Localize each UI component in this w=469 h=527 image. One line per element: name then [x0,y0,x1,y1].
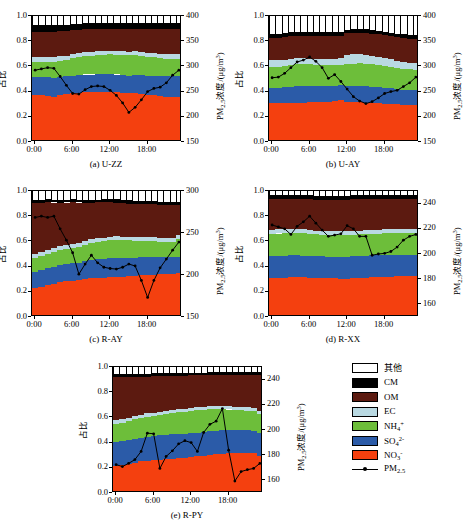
band-SO42- [95,74,102,92]
band-SO42- [238,430,245,453]
stack-column [213,367,220,491]
band-NH4+ [382,66,389,88]
y2-tick-mark [181,141,184,142]
band-OM [38,32,45,57]
band-其他 [51,15,58,25]
band-SO42- [120,258,127,277]
band-其他 [163,366,170,373]
stack-column [157,367,164,491]
band-CM [163,23,170,29]
band-NO3- [201,456,208,491]
band-NO3- [132,463,139,491]
band-NO3- [294,103,301,140]
legend-swatch-other [352,363,378,373]
band-OM [76,30,83,53]
band-CM [126,374,133,377]
x-tick-label: 18:00 [366,145,402,154]
band-SO42- [151,76,158,95]
band-OM [113,377,120,420]
y2-tick-label: 180 [423,274,436,283]
y-tick-mark [28,40,31,41]
y-tick-mark [109,366,112,367]
band-其他 [95,190,102,200]
band-OM [363,199,370,230]
band-NH4+ [350,64,357,86]
x-tick-mark [115,492,116,495]
band-CM [369,195,376,199]
legend-swatch-no3 [352,450,378,460]
band-其他 [388,15,395,33]
band-EC [413,63,418,70]
band-SO42- [369,255,376,277]
band-EC [57,246,64,250]
band-其他 [57,190,64,200]
band-NH4+ [194,410,201,433]
y2-tick-label: 200 [267,425,280,434]
band-SO42- [176,257,181,273]
band-SO42- [294,255,301,277]
band-NO3- [157,96,164,140]
band-NO3- [413,105,418,140]
stack-column [275,191,282,315]
legend-label: EC [384,407,396,416]
band-NO3- [288,103,295,140]
stack-column [313,191,320,315]
band-EC [51,248,58,252]
band-EC [219,406,226,409]
band-SO42- [51,78,58,97]
band-NO3- [126,464,133,491]
band-其他 [144,366,151,374]
band-NO3- [394,276,401,315]
band-EC [407,229,414,233]
band-EC [126,418,133,421]
band-CM [38,200,45,203]
band-NO3- [382,277,389,315]
band-SO42- [88,260,95,278]
legend-label: SO42- [384,434,404,448]
band-NH4+ [182,412,189,434]
y-axis-label: 占比 [232,245,244,263]
band-其他 [307,190,314,195]
stack-column [363,191,370,315]
band-CM [294,32,301,36]
stack-column [400,16,407,140]
band-OM [63,203,70,246]
band-EC [269,60,276,66]
stack-column [288,16,295,140]
band-EC [107,237,114,241]
band-OM [332,36,339,58]
band-SO42- [144,437,151,461]
stack-column [363,16,370,140]
stack-column [119,367,126,491]
band-EC [88,52,95,56]
band-NH4+ [163,414,170,435]
y2-tick-mark [262,379,265,380]
band-CM [313,196,320,200]
band-OM [244,375,251,407]
band-CM [294,195,301,199]
x-tick-mark [346,316,347,319]
y2-tick-label: 150 [423,137,436,146]
band-NO3- [113,277,120,315]
band-NH4+ [101,241,108,259]
y-tick-label: 0.4 [242,261,264,270]
band-NH4+ [363,234,370,256]
band-CM [325,196,332,200]
y2-tick-mark [262,404,265,405]
band-NH4+ [126,421,133,440]
band-NO3- [388,104,395,140]
band-NO3- [238,453,245,491]
band-SO42- [325,257,332,279]
band-其他 [350,190,357,195]
band-SO42- [126,440,133,464]
band-EC [70,54,77,58]
y2-tick-label: 220 [267,399,280,408]
band-OM [82,203,89,241]
band-其他 [126,190,133,200]
band-SO42- [63,76,70,94]
band-OM [126,377,133,418]
band-OM [169,376,176,410]
band-OM [332,200,339,232]
legend-swatch-cm [352,378,378,388]
band-OM [163,376,170,411]
